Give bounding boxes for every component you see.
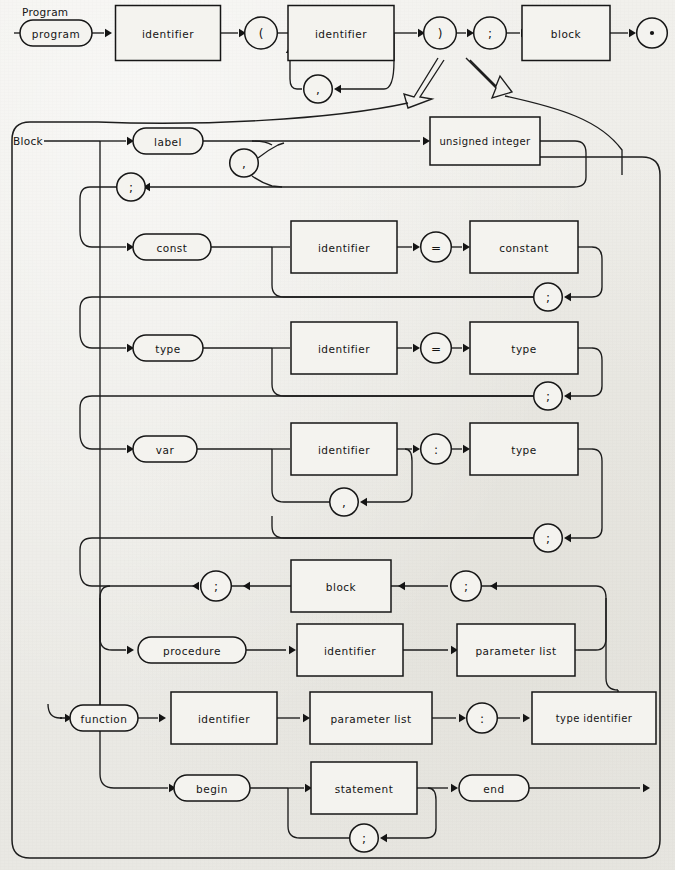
node-const-equals-label: =	[431, 241, 441, 255]
node-var-type[interactable]: type	[470, 423, 578, 475]
node-begin-keyword[interactable]: begin	[174, 775, 250, 801]
node-period-terminal[interactable]	[637, 18, 668, 48]
node-function-parameter-list-label: parameter list	[330, 713, 411, 725]
node-proc-block[interactable]: block	[291, 560, 391, 612]
node-end-keyword-label: end	[483, 783, 504, 795]
node-unsigned-integer[interactable]: unsigned integer	[430, 117, 540, 165]
wire-proc-return	[578, 586, 606, 650]
node-label-keyword-label: label	[154, 136, 182, 148]
node-function-type-identifier-label: type identifier	[556, 713, 633, 724]
node-function-colon-label: :	[480, 712, 484, 726]
node-type-type-label: type	[511, 343, 536, 355]
node-program-keyword[interactable]: program	[20, 20, 92, 46]
node-var-keyword[interactable]: var	[133, 436, 197, 462]
node-comma-loop-var[interactable]: ,	[330, 488, 359, 516]
node-unsigned-integer-label: unsigned integer	[439, 136, 531, 147]
node-identifier-2-label: identifier	[315, 28, 367, 40]
node-var-identifier-label: identifier	[318, 444, 370, 456]
callout-arrow-right-icon	[466, 58, 512, 98]
node-function-keyword-label: function	[81, 713, 128, 725]
node-const-equals[interactable]: =	[421, 232, 452, 262]
node-semicolon-proc-left-label: ;	[214, 580, 218, 594]
node-function-type-identifier[interactable]: type identifier	[532, 692, 656, 744]
node-var-type-label: type	[511, 444, 536, 456]
node-identifier-1[interactable]: identifier	[116, 6, 221, 61]
node-statement-box-label: statement	[335, 783, 394, 795]
node-semicolon-var[interactable]: ;	[534, 524, 563, 552]
node-semicolon-statement-label: ;	[362, 832, 366, 846]
arrow-right-icon	[463, 344, 470, 352]
node-procedure-identifier-label: identifier	[324, 645, 376, 657]
node-var-colon-label: :	[434, 443, 438, 457]
node-period-terminal-glyph	[650, 31, 654, 35]
node-semicolon-const[interactable]: ;	[534, 283, 563, 311]
node-statement-box[interactable]: statement	[311, 762, 417, 814]
node-identifier-2[interactable]: identifier	[288, 6, 394, 61]
arrow-right-icon	[451, 784, 458, 792]
section-title-block: Block	[13, 135, 44, 147]
arrow-left-icon	[564, 392, 571, 400]
node-procedure-keyword-label: procedure	[163, 645, 221, 657]
arrow-right-icon	[413, 445, 420, 453]
arrow-right-icon	[303, 714, 310, 722]
node-semicolon-label[interactable]: ;	[117, 173, 146, 201]
wire-semicolon-label-merge	[80, 205, 100, 247]
wire-rec-to-proc	[100, 586, 126, 650]
node-type-identifier-label: identifier	[318, 343, 370, 355]
node-function-keyword[interactable]: function	[70, 705, 138, 731]
node-close-paren[interactable]: )	[424, 17, 457, 49]
node-const-keyword[interactable]: const	[133, 234, 211, 260]
arrow-left-icon	[564, 534, 571, 542]
callout-curve-left	[98, 103, 408, 123]
node-comma-loop-program[interactable]: ,	[304, 75, 333, 103]
node-type-equals[interactable]: =	[421, 333, 452, 363]
arrow-right-icon	[413, 344, 420, 352]
node-semicolon-proc-right-label: ;	[464, 580, 468, 594]
node-function-identifier-label: identifier	[198, 713, 250, 725]
node-function-parameter-list[interactable]: parameter list	[310, 692, 432, 744]
arrow-right-icon	[463, 243, 470, 251]
node-var-identifier[interactable]: identifier	[291, 423, 397, 475]
wire-comma-label-down	[252, 176, 282, 187]
node-semicolon-1-label: ;	[488, 27, 492, 41]
node-comma-loop-label-label: ,	[242, 157, 246, 171]
node-semicolon-var-label: ;	[546, 532, 550, 546]
node-function-identifier[interactable]: identifier	[171, 692, 277, 744]
node-semicolon-type[interactable]: ;	[534, 382, 563, 410]
node-procedure-identifier[interactable]: identifier	[297, 624, 403, 676]
arrow-right-icon	[463, 445, 470, 453]
node-const-identifier-label: identifier	[318, 242, 370, 254]
node-function-colon[interactable]: :	[467, 703, 498, 733]
node-procedure-parameter-list-label: parameter list	[475, 645, 556, 657]
node-close-paren-label: )	[438, 27, 443, 41]
arrow-right-icon	[159, 714, 166, 722]
arrow-right-icon	[105, 29, 112, 37]
node-semicolon-proc-right[interactable]: ;	[451, 571, 482, 601]
node-block-box[interactable]: block	[522, 6, 610, 61]
node-const-constant-label: constant	[499, 242, 549, 254]
arrow-left-icon	[192, 582, 199, 590]
node-var-colon[interactable]: :	[421, 434, 452, 464]
node-const-constant[interactable]: constant	[470, 221, 578, 273]
node-var-keyword-label: var	[156, 444, 175, 456]
syntax-diagram-canvas: programidentifier(identifier);block,labe…	[0, 0, 675, 870]
node-const-identifier[interactable]: identifier	[291, 221, 397, 273]
node-semicolon-proc-left[interactable]: ;	[201, 571, 232, 601]
arrow-right-icon	[289, 646, 296, 654]
node-open-paren[interactable]: (	[245, 17, 278, 49]
node-end-keyword[interactable]: end	[459, 775, 529, 801]
wire-var-repeat	[272, 516, 534, 538]
node-label-keyword[interactable]: label	[133, 128, 203, 154]
arrow-right-icon	[459, 714, 466, 722]
node-identifier-1-label: identifier	[142, 28, 194, 40]
node-type-identifier[interactable]: identifier	[291, 322, 397, 374]
node-type-equals-label: =	[431, 342, 441, 356]
node-type-keyword[interactable]: type	[133, 335, 203, 361]
node-procedure-parameter-list[interactable]: parameter list	[457, 624, 575, 676]
node-semicolon-1[interactable]: ;	[474, 17, 507, 49]
node-semicolon-statement[interactable]: ;	[350, 824, 379, 852]
node-type-type[interactable]: type	[470, 322, 578, 374]
node-procedure-keyword[interactable]: procedure	[138, 637, 246, 663]
node-comma-loop-label[interactable]: ,	[230, 149, 259, 177]
node-comma-loop-var-label: ,	[342, 496, 346, 510]
